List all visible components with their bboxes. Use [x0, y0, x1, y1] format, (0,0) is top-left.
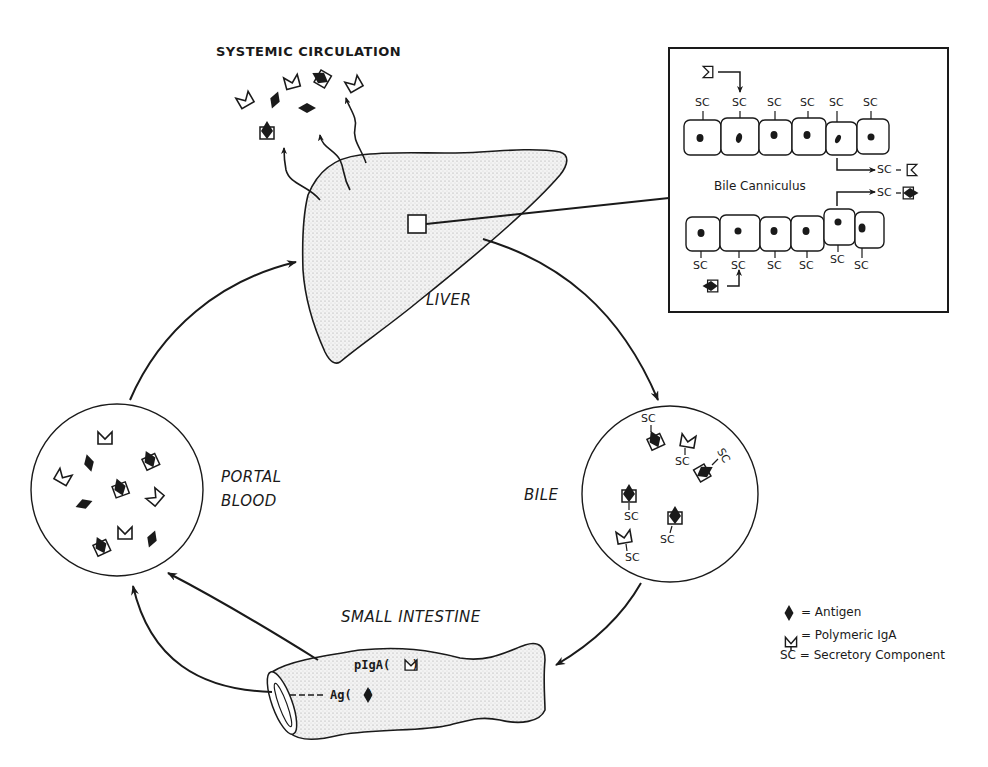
portal-blood-label-line1: PORTAL [221, 468, 282, 486]
sc-label: SC [625, 551, 640, 564]
sc-label: SC [830, 253, 845, 266]
systemic-circulation-title: SYSTEMIC CIRCULATION [216, 44, 401, 59]
sc-label: SC [767, 259, 782, 272]
bile-canaliculus-inset [669, 48, 948, 312]
sc-label: SC [877, 186, 892, 199]
small-intestine-label: SMALL INTESTINE [341, 608, 481, 626]
systemic-molecules [236, 67, 363, 139]
antigen-icon [785, 605, 794, 621]
sc-label: SC [767, 96, 782, 109]
liver-sample-box [408, 215, 426, 233]
arrow-portal-to-liver [130, 262, 296, 400]
bile-canaliculus-label: Bile Canniculus [714, 179, 806, 193]
sc-label: SC [863, 96, 878, 109]
sc-label: SC [641, 412, 656, 425]
liver-label: LIVER [426, 291, 471, 309]
sc-label: SC [675, 455, 690, 468]
portal-blood-label-line2: BLOOD [221, 492, 277, 510]
sc-label: SC [693, 259, 708, 272]
sc-label: SC [731, 259, 746, 272]
legend-symbols [785, 605, 797, 651]
sc-label: SC [829, 96, 844, 109]
piga-label: pIgA( ) [354, 658, 419, 672]
sc-label: SC [877, 163, 892, 176]
legend-antigen: = Antigen [801, 605, 861, 619]
arrow-bile-to-intestine [556, 583, 641, 665]
sc-label: SC [624, 510, 639, 523]
liver [303, 150, 669, 363]
sc-label: SC [660, 533, 675, 546]
arrow-liver-to-bile [483, 239, 658, 400]
bile-label: BILE [524, 486, 559, 504]
arrow-intestine-to-portal-ag [133, 586, 272, 692]
legend-polymeric-iga: = Polymeric IgA [801, 628, 897, 642]
sc-label: SC [800, 96, 815, 109]
legend-sc: SC = Secretory Component [780, 648, 945, 662]
portal-blood-circle [31, 404, 203, 576]
bile-circle [582, 406, 758, 582]
arrow-intestine-to-portal-piga [168, 573, 318, 660]
sc-label: SC [854, 259, 869, 272]
ag-label: Ag( ) [330, 688, 373, 702]
sc-label: SC [695, 96, 710, 109]
sc-label: SC [732, 96, 747, 109]
sc-label: SC [799, 259, 814, 272]
